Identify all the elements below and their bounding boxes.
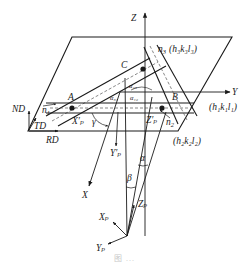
z-axis-label: Z <box>131 13 137 23</box>
xp-axis <box>113 222 127 236</box>
zp-label: Zₚ <box>138 199 147 209</box>
figure-caption: 图 ... <box>0 252 249 263</box>
td-label: TD <box>34 121 46 131</box>
yp-axis <box>108 236 127 244</box>
point-a-label: A <box>67 92 74 102</box>
plane1-label: (h₁k₁l₁) <box>209 102 237 113</box>
n3-label: n3 <box>158 44 167 55</box>
n2-label: n2 <box>166 117 175 128</box>
y-axis-label: Y <box>232 87 239 97</box>
projection-lines <box>125 78 166 236</box>
beta-arc <box>126 187 136 188</box>
point-c-label: C <box>121 60 128 70</box>
n3-plane-label: (h₃k₃l₃) <box>169 44 197 55</box>
alpha12-label: α₁₂ <box>130 94 139 101</box>
boundary-band-b <box>46 103 194 113</box>
alpha-arc <box>138 165 148 166</box>
beta-label: β <box>126 173 132 183</box>
n1-label: n1 <box>42 105 50 116</box>
plane2-label: (h₂k₂l₂) <box>173 136 201 147</box>
gamma-label: γ <box>92 117 96 127</box>
xp-prime-label: X′ₚ <box>71 116 84 126</box>
zp-axis <box>127 205 134 236</box>
crystal-geometry-diagram: Z Y X ND TD RD A B C n1 n2 n3 (h₃k₃l₃) (… <box>0 0 249 266</box>
yp-prime-label: Y′ₚ <box>110 148 121 158</box>
point-a-dot <box>69 105 74 110</box>
point-b-label: B <box>172 92 178 102</box>
yp-prime-axis <box>116 112 118 146</box>
alpha31-label: α₃₁ <box>110 94 118 101</box>
nd-label: ND <box>11 104 25 114</box>
rd-label: RD <box>45 135 59 145</box>
xp-label: Xₚ <box>98 212 109 222</box>
point-c-dot <box>140 66 145 71</box>
x-axis-label: X <box>81 190 89 200</box>
